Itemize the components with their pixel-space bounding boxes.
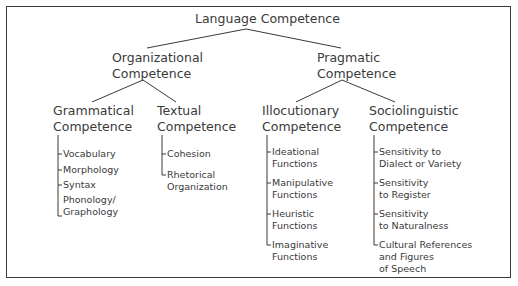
- leaf-sensitivity-naturalness: Sensitivity to Naturalness: [379, 208, 448, 232]
- node-language-competence: Language Competence: [195, 12, 340, 26]
- leaf-cohesion: Cohesion: [167, 148, 211, 160]
- leaf-phonology-graphology: Phonology/ Graphology: [63, 194, 118, 218]
- node-label-line2: Competence: [53, 119, 132, 134]
- node-label-line2: Competence: [317, 66, 396, 81]
- leaf-syntax: Syntax: [63, 179, 96, 191]
- leaf-vocabulary: Vocabulary: [63, 148, 116, 160]
- node-illocutionary-competence: IllocutionaryCompetence: [262, 103, 341, 135]
- leaf-ideational-functions: Ideational Functions: [272, 146, 319, 170]
- leaf-manipulative-functions: Manipulative Functions: [272, 177, 333, 201]
- leaf-morphology: Morphology: [63, 164, 119, 176]
- node-label-line1: Sociolinguistic: [369, 103, 459, 118]
- node-grammatical-competence: GrammaticalCompetence: [53, 103, 134, 135]
- node-label-line1: Illocutionary: [262, 103, 339, 118]
- node-label-line1: Textual: [157, 103, 201, 118]
- leaf-imaginative-functions: Imaginative Functions: [272, 239, 328, 263]
- leaf-heuristic-functions: Heuristic Functions: [272, 208, 317, 232]
- node-label-line2: Competence: [262, 119, 341, 134]
- node-textual-competence: TextualCompetence: [157, 103, 236, 135]
- leaf-rhetorical-organization: Rhetorical Organization: [167, 169, 228, 193]
- leaf-cultural-references: Cultural References and Figures of Speec…: [379, 239, 472, 275]
- node-label-line1: Pragmatic: [317, 50, 380, 65]
- node-label-line1: Grammatical: [53, 103, 134, 118]
- leaf-sensitivity-register: Sensitivity to Register: [379, 177, 431, 201]
- leaf-sensitivity-dialect: Sensitivity to Dialect or Variety: [379, 146, 461, 170]
- node-label-line2: Competence: [157, 119, 236, 134]
- node-label-line1: Organizational: [112, 50, 203, 65]
- node-sociolinguistic-competence: SociolinguisticCompetence: [369, 103, 459, 135]
- node-label-line2: Competence: [112, 66, 191, 81]
- node-pragmatic-competence: PragmaticCompetence: [317, 50, 396, 82]
- node-label-line2: Competence: [369, 119, 448, 134]
- node-organizational-competence: OrganizationalCompetence: [112, 50, 203, 82]
